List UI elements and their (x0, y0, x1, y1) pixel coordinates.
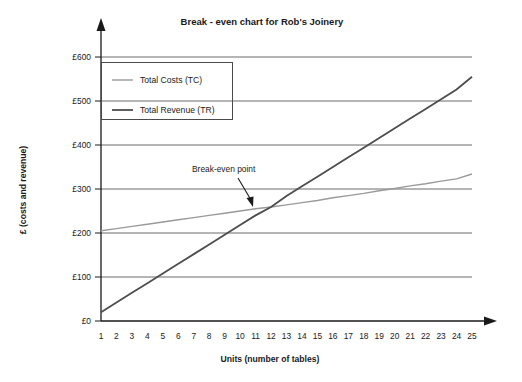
x-tick-label-13: 13 (282, 331, 292, 341)
x-tick-label-2: 2 (114, 331, 119, 341)
x-tick-label-14: 14 (297, 331, 307, 341)
x-tick-label-19: 19 (375, 331, 385, 341)
chart-legend: Total Costs (TC) Total Revenue (TR) (102, 63, 233, 120)
x-tick-label-9: 9 (222, 331, 227, 341)
y-tick-label-400: £400 (72, 140, 91, 150)
x-tick-label-15: 15 (313, 331, 323, 341)
y-axis-tick-labels: £600 £500 £400 £300 £200 £100 £0 (72, 52, 91, 326)
break-even-chart: Break - even chart for Rob's Joinery (0, 0, 522, 382)
y-tick-label-0: £0 (82, 316, 92, 326)
x-axis-title: Units (number of tables) (221, 354, 320, 364)
chart-title: Break - even chart for Rob's Joinery (181, 16, 344, 27)
x-tick-label-18: 18 (359, 331, 369, 341)
y-tick-label-200: £200 (72, 228, 91, 238)
x-tick-label-4: 4 (145, 331, 150, 341)
x-tick-label-8: 8 (207, 331, 212, 341)
x-tick-label-10: 10 (235, 331, 245, 341)
y-tick-label-600: £600 (72, 52, 91, 62)
break-even-arrowhead (247, 197, 254, 208)
break-even-chart-screenshot: Break - even chart for Rob's Joinery (0, 0, 522, 382)
y-axis-title: £ (costs and revenue) (18, 146, 28, 234)
x-tick-label-24: 24 (452, 331, 462, 341)
x-axis-tick-labels: 1234567891011121314151617181920212223242… (99, 331, 477, 341)
legend-label-total-revenue: Total Revenue (TR) (140, 105, 215, 115)
x-tick-label-5: 5 (160, 331, 165, 341)
x-tick-label-12: 12 (266, 331, 276, 341)
x-tick-label-1: 1 (99, 331, 104, 341)
x-tick-label-17: 17 (344, 331, 354, 341)
x-tick-label-11: 11 (251, 331, 260, 341)
x-tick-label-7: 7 (191, 331, 196, 341)
series-total-costs (101, 174, 472, 231)
break-even-label: Break-even point (192, 164, 256, 174)
x-tick-label-25: 25 (467, 331, 477, 341)
x-tick-label-23: 23 (436, 331, 446, 341)
x-tick-label-16: 16 (328, 331, 338, 341)
y-tick-label-300: £300 (72, 184, 91, 194)
y-tick-label-100: £100 (72, 272, 91, 282)
y-axis-arrowhead (97, 18, 106, 31)
legend-label-total-costs: Total Costs (TC) (140, 75, 202, 85)
y-tick-label-500: £500 (72, 96, 91, 106)
x-tick-label-3: 3 (130, 331, 135, 341)
x-tick-label-21: 21 (406, 331, 416, 341)
y-axis-ticks (95, 57, 101, 321)
x-tick-label-22: 22 (421, 331, 431, 341)
break-even-annotation: Break-even point (192, 164, 256, 207)
x-axis (101, 317, 497, 326)
gridlines (101, 57, 472, 277)
x-tick-label-6: 6 (176, 331, 181, 341)
x-axis-arrowhead (484, 317, 497, 326)
x-tick-label-20: 20 (390, 331, 400, 341)
